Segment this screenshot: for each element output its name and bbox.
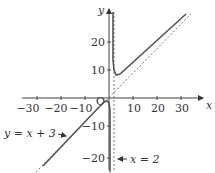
- vertical-asymptote-label: x = 2: [130, 153, 159, 166]
- y-tick-label: 20: [91, 36, 105, 49]
- x-tick-label: −20: [44, 102, 67, 115]
- curve-right-branch: [113, 12, 186, 75]
- x-tick-label: 10: [127, 102, 141, 115]
- x-tick-label: 20: [151, 102, 165, 115]
- oblique-asymptote-label: y = x + 3: [3, 127, 56, 140]
- x-tick-label: 30: [175, 102, 189, 115]
- graph: −30 −20 −10 10 20 30 20 10 −10 −20 x y O…: [0, 0, 215, 173]
- y-tick-label: 10: [91, 64, 105, 77]
- x-axis-label: x: [206, 99, 213, 112]
- y-tick-label: −20: [82, 152, 105, 165]
- oblique-arrow-icon: [58, 134, 66, 136]
- x-tick-label: −10: [69, 102, 92, 115]
- y-axis-label: y: [97, 4, 105, 17]
- x-tick-label: −30: [16, 102, 39, 115]
